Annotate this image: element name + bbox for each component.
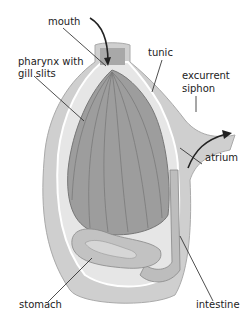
label-stomach: stomach [19, 299, 62, 311]
label-excurrent-line2: siphon [182, 83, 215, 95]
label-intestine: intestine [196, 299, 240, 311]
label-mouth: mouth [48, 16, 80, 28]
label-atrium: atrium [205, 152, 238, 164]
label-excurrent-line1: excurrent [182, 70, 230, 82]
label-pharynx-line2: gill slits [18, 68, 56, 80]
label-pharynx-line1: pharynx with [18, 56, 84, 68]
oral-siphon [100, 48, 125, 65]
label-tunic: tunic [148, 47, 173, 59]
